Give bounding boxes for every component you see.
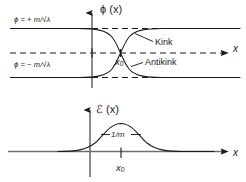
physics-figure: ϕ = + m/√λ ϕ = − m/√λ ϕ (x) Kink Antikin… [0,0,246,182]
upper-asymptote-label: ϕ = + m/√λ [14,16,50,24]
energy-density-curve [58,124,214,152]
top-x-axis-label: x [233,44,238,54]
kink-label: Kink [155,38,173,47]
width-label: 1/m [111,131,124,139]
energy-axis-label: ℰ (x) [96,104,119,115]
antikink-leader-line [131,63,143,67]
top-x0-label: x0 [115,57,123,68]
bottom-x0-subscript: 0 [121,166,125,173]
lower-asymptote-label: ϕ = − m/√λ [14,61,50,69]
kink-leader-line [135,34,153,42]
bottom-x0-label: x0 [116,163,124,174]
antikink-label: Antikink [145,58,177,67]
figure-canvas [0,0,246,182]
bottom-x-axis-label: x [233,148,238,158]
top-x0-subscript: 0 [120,60,124,67]
phi-axis-label: ϕ (x) [100,4,122,15]
